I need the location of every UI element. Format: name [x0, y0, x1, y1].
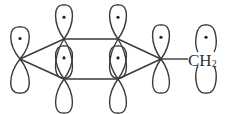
electron-dot-icon: [116, 56, 119, 59]
orbital-lobe-up: [110, 5, 127, 39]
electron-dot-icon: [116, 16, 119, 19]
ch2-label-main: CH: [188, 51, 212, 70]
orbital-lobe-up: [56, 5, 73, 39]
orbital-lobe-down: [56, 79, 73, 113]
electron-dot-icon: [18, 37, 21, 40]
ch2-label-subscript: 2: [212, 58, 217, 69]
electron-dot-icon: [204, 36, 207, 39]
orbital-lobe-up: [11, 27, 30, 59]
orbital-lobe-down: [153, 59, 170, 93]
electron-dot-icon: [62, 56, 65, 59]
electron-dot-icon: [62, 16, 65, 19]
ch2-label: CH2: [188, 51, 217, 70]
orbital-lobe-up: [153, 25, 170, 59]
sigma-bond-framework: [20, 39, 188, 79]
orbital-lobe-down: [110, 79, 127, 113]
electron-dot-icon: [159, 36, 162, 39]
benzyl-radical-orbital-diagram: CH2: [0, 0, 233, 114]
orbital-lobe-down: [196, 66, 217, 93]
p-orbital-ring-left: [11, 27, 30, 93]
orbital-lobe-down: [11, 59, 30, 93]
